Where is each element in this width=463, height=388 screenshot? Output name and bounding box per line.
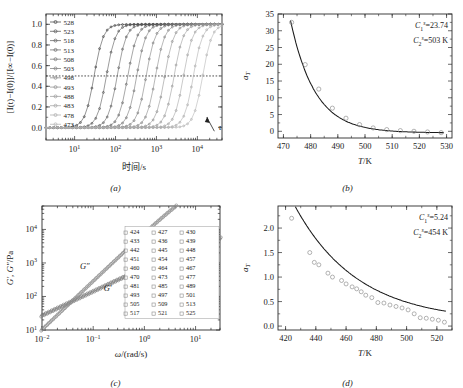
panel-c-plot: 10−210−1100101101102103104G″G′G′, G″/Paω… (0, 194, 231, 382)
legend-label: 433 (130, 237, 139, 244)
legend-label: 488 (64, 93, 75, 101)
x-axis-label: T/K (358, 348, 373, 358)
x-tick-label: 100 (139, 334, 151, 345)
legend-label: 445 (158, 246, 167, 253)
legend-label: 460 (130, 264, 139, 271)
tau-arrowhead (205, 117, 210, 123)
x-axis-label: ω/(rad/s) (115, 349, 147, 359)
legend-label: 436 (158, 237, 167, 244)
data-point (382, 301, 386, 305)
x-tick-label: 10−2 (35, 334, 50, 345)
data-point (340, 278, 344, 282)
legend-label: 457 (186, 255, 195, 262)
legend-label: 483 (64, 102, 75, 110)
legend-label: 489 (186, 282, 195, 289)
x-axis-label: T/K (358, 156, 373, 166)
legend-label: 525 (186, 309, 195, 316)
data-point (388, 303, 392, 307)
data-point (317, 263, 321, 267)
legend-label: 477 (186, 273, 195, 280)
panel-b-caption: (b) (232, 183, 463, 193)
data-point (424, 316, 428, 320)
data-point (308, 251, 312, 255)
data-point (364, 293, 368, 297)
y-axis-label: aT (240, 264, 251, 273)
legend-label: 442 (130, 246, 139, 253)
data-point (412, 312, 416, 316)
panel-d-plot: 4204404604805005200.00.51.01.52.0aTT/KC1… (232, 194, 463, 382)
legend-label: 501 (186, 291, 195, 298)
y-tick-label: 0.8 (31, 40, 42, 50)
data-point (430, 317, 434, 321)
y-tick-label: 20 (266, 59, 275, 69)
legend-label: 503 (64, 65, 75, 73)
panel-b: 47048049050051052053005101520253035aTT/K… (232, 0, 463, 194)
x-axis-label: 时间/s (122, 161, 147, 172)
data-point (303, 63, 307, 67)
panel-d: 4204404604805005200.00.51.01.52.0aTT/KC1… (232, 194, 463, 388)
y-tick-label: 2.0 (263, 223, 274, 233)
x-tick-label: 10−1 (86, 334, 101, 345)
data-point (406, 308, 410, 312)
data-point (442, 320, 446, 324)
x-tick-label: 420 (279, 333, 292, 343)
y-tick-label: 15 (266, 76, 275, 86)
legend-label: 508 (64, 56, 75, 64)
plot-frame (278, 14, 452, 138)
data-point (398, 129, 402, 133)
x-tick-label: 103 (151, 144, 163, 155)
annotation-c2: C2s=503 K (413, 35, 448, 47)
legend-label: 497 (158, 291, 167, 298)
legend-label: 517 (130, 309, 139, 316)
legend-label: 509 (158, 300, 167, 307)
legend-label: 473 (64, 121, 75, 129)
legend-label: 505 (130, 300, 139, 307)
x-tick-label: 470 (277, 141, 290, 151)
legend-label: 478 (64, 112, 75, 120)
data-point (312, 260, 316, 264)
legend-label: 485 (158, 282, 167, 289)
data-point (418, 316, 422, 320)
legend-label: 513 (186, 300, 195, 307)
legend-label: 493 (64, 84, 75, 92)
data-point (394, 304, 398, 308)
legend-label: 430 (186, 228, 195, 235)
y-tick-label: 0.5 (263, 297, 274, 307)
y-tick-label: 5 (270, 110, 274, 120)
y-tick-label: 30 (266, 26, 275, 36)
panel-c: 10−210−1100101101102103104G″G′G′, G″/Paω… (0, 194, 231, 388)
data-point (436, 318, 440, 322)
y-tick-label: 103 (26, 257, 38, 268)
data-point (350, 285, 354, 289)
x-tick-label: 101 (69, 144, 81, 155)
y-axis-label: G′, G″/Pa (5, 251, 15, 286)
y-tick-label: 0.0 (31, 123, 42, 133)
legend-label: 424 (130, 228, 140, 235)
x-tick-label: 104 (192, 144, 204, 155)
x-tick-label: 101 (190, 334, 202, 345)
legend-label: 473 (158, 273, 167, 280)
x-tick-label: 500 (400, 333, 413, 343)
legend-label: 481 (130, 282, 139, 289)
data-point (412, 129, 416, 133)
legend-label: 470 (130, 273, 139, 280)
data-point (344, 282, 348, 286)
y-tick-label: 0.2 (31, 102, 42, 112)
g-prime-label: G′ (104, 283, 112, 293)
x-tick-label: 440 (309, 333, 322, 343)
x-tick-label: 520 (430, 333, 443, 343)
data-point (290, 216, 294, 220)
data-point (355, 287, 359, 291)
data-point (359, 290, 363, 294)
legend-label: 523 (64, 28, 75, 36)
legend-label: 498 (64, 74, 75, 82)
y-tick-label: 0.0 (263, 321, 274, 331)
panel-b-plot: 47048049050051052053005101520253035aTT/K… (232, 0, 463, 186)
data-point (344, 116, 348, 120)
legend-label: 467 (186, 264, 195, 271)
legend-label: 518 (64, 37, 75, 45)
y-axis-label: aT (240, 72, 251, 81)
panel-d-caption: (d) (232, 378, 463, 388)
panel-c-caption: (c) (0, 378, 231, 388)
y-tick-label: 102 (26, 291, 38, 302)
